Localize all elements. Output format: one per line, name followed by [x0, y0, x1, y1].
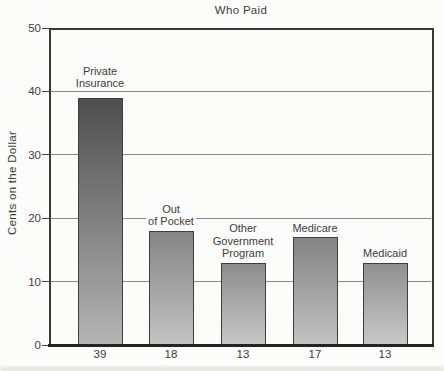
scan-artifact — [0, 365, 444, 371]
bar-label-medicaid: Medicaid — [361, 247, 409, 260]
bar-label-out-of-pocket: Out of Pocket — [146, 203, 196, 228]
plot-border-left — [49, 28, 51, 345]
gridline-40 — [51, 91, 431, 92]
value-label-medicaid: 13 — [379, 348, 392, 360]
plot-border-top — [49, 28, 434, 30]
bar-label-private-insurance: Private Insurance — [74, 65, 126, 90]
bar-medicare — [293, 237, 338, 345]
y-tick-label-10: 10 — [0, 275, 41, 289]
y-tick-label-40: 40 — [0, 84, 41, 98]
bar-out-of-pocket — [149, 231, 194, 345]
value-label-out-of-pocket: 18 — [165, 348, 178, 360]
y-tick-label-30: 30 — [0, 148, 41, 162]
chart-title: Who Paid — [50, 4, 432, 16]
value-label-medicare: 17 — [309, 348, 322, 360]
bar-medicaid — [363, 263, 408, 345]
value-label-other-government-program: 13 — [237, 348, 250, 360]
value-label-private-insurance: 39 — [94, 348, 107, 360]
y-tick-label-20: 20 — [0, 211, 41, 225]
plot-border-right — [432, 28, 434, 345]
bar-label-other-government-program: Other Government Program — [211, 222, 276, 260]
bar-label-medicare: Medicare — [290, 222, 339, 235]
y-tick-label-50: 50 — [0, 21, 41, 35]
bar-other-government-program — [221, 263, 266, 345]
x-axis-line — [48, 344, 434, 347]
y-tick-label-0: 0 — [0, 338, 41, 352]
bar-private-insurance — [78, 98, 123, 345]
bar-chart: Who Paid Cents on the Dollar 01020304050… — [0, 0, 444, 371]
